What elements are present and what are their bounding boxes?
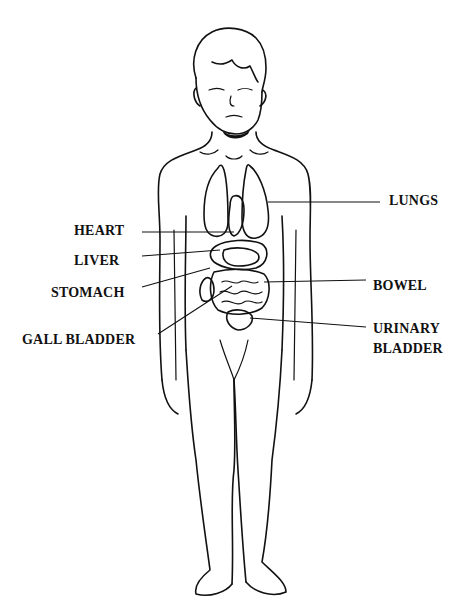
- label-urinary-bladder-line1: URINARY: [373, 320, 440, 338]
- pointer-lines: [142, 202, 380, 334]
- label-bowel: BOWEL: [373, 277, 427, 295]
- pointer-gall-bladder: [158, 286, 232, 334]
- stomach: [223, 248, 259, 266]
- label-heart: HEART: [74, 222, 124, 240]
- label-lungs: LUNGS: [389, 192, 438, 210]
- urinary-bladder: [227, 310, 253, 330]
- label-liver: LIVER: [74, 252, 119, 270]
- anatomy-diagram: HEART LIVER STOMACH GALL BLADDER LUNGS B…: [0, 0, 468, 616]
- label-stomach: STOMACH: [51, 284, 125, 302]
- label-gall-bladder: GALL BLADDER: [22, 331, 135, 349]
- body-illustration: [0, 0, 468, 616]
- head: [194, 28, 266, 138]
- lung-left: [204, 165, 228, 236]
- pointer-stomach: [142, 268, 210, 287]
- pointer-liver: [142, 250, 220, 256]
- pointer-urinary-bladder: [250, 318, 366, 327]
- organs: [200, 165, 269, 330]
- label-urinary-bladder-line2: BLADDER: [373, 340, 443, 358]
- pointer-bowel: [264, 280, 366, 282]
- lung-right: [242, 165, 269, 238]
